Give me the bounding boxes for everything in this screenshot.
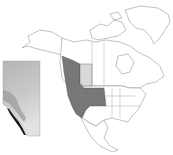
alberta-inset-map: [0, 0, 173, 155]
